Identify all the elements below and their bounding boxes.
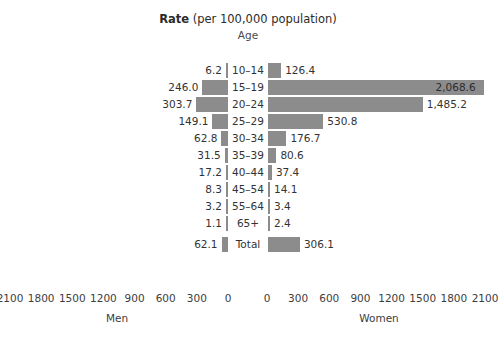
age-group-label: 65+: [228, 215, 268, 232]
page-title: Rate (per 100,000 population): [0, 12, 496, 27]
men-bar-cell: 62.8: [0, 130, 228, 147]
axis-women-ticks: 03006009001200150018002100: [262, 291, 496, 305]
age-group-label: 45–54: [228, 181, 268, 198]
title-normal: (per 100,000 population): [189, 12, 337, 26]
women-bar: [268, 199, 270, 214]
axis-label-women: Women: [262, 311, 496, 325]
table-row: 1.165+2.4: [0, 215, 496, 232]
women-bar-cell: 126.4: [268, 62, 496, 79]
women-value-label: 306.1: [304, 237, 334, 252]
axis-tick-women: 600: [319, 291, 339, 305]
men-value-label: 303.7: [162, 97, 192, 112]
women-bar-cell: 1,485.2: [268, 96, 496, 113]
table-row: 6.210–14126.4: [0, 62, 496, 79]
women-bar: [268, 165, 272, 180]
men-bar-cell: 303.7: [0, 96, 228, 113]
women-bar-cell: 2,068.6: [268, 79, 496, 96]
women-bar-cell: 14.1: [268, 181, 496, 198]
men-bar-cell: 246.0: [0, 79, 228, 96]
men-bar-cell: 62.1: [0, 236, 228, 253]
axis-tick-women: 0: [264, 291, 271, 305]
axis-tick-women: 2100: [472, 291, 498, 305]
women-bar: [268, 63, 281, 78]
women-bar-cell: 80.6: [268, 147, 496, 164]
men-value-label: 246.0: [168, 80, 198, 95]
axis-tick-men: 300: [187, 291, 207, 305]
axis-tick-women: 900: [350, 291, 370, 305]
women-value-label: 530.8: [327, 114, 357, 129]
chart-header: Rate (per 100,000 population) Age: [0, 12, 496, 42]
women-bar: [268, 182, 270, 197]
axis-tick-men: 1500: [59, 291, 86, 305]
axis-tick-women: 1800: [440, 291, 467, 305]
age-group-label: 15–19: [228, 79, 268, 96]
table-row: 246.015–192,068.6: [0, 79, 496, 96]
men-value-label: 8.3: [205, 182, 222, 197]
table-row: 149.125–29530.8: [0, 113, 496, 130]
axis-tick-men: 2100: [0, 291, 23, 305]
age-column-header: Age: [0, 28, 496, 42]
axis-tick-men: 600: [156, 291, 176, 305]
table-row: 17.240–4437.4: [0, 164, 496, 181]
men-bar-cell: 1.1: [0, 215, 228, 232]
axis-label-men: Men: [0, 311, 234, 325]
age-group-label: 25–29: [228, 113, 268, 130]
axis-tick-women: 1500: [409, 291, 436, 305]
axis-men-ticks: 21001800150012009006003000: [0, 291, 234, 305]
axis-tick-women: 1200: [378, 291, 405, 305]
women-bar-cell: 176.7: [268, 130, 496, 147]
women-value-label: 2.4: [274, 216, 291, 231]
axis-tick-men: 0: [225, 291, 232, 305]
age-group-label: 55–64: [228, 198, 268, 215]
men-value-label: 3.2: [205, 199, 222, 214]
axis-tick-women: 300: [288, 291, 308, 305]
men-value-label: 1.1: [205, 216, 222, 231]
age-group-label: Total: [228, 236, 268, 253]
men-value-label: 31.5: [197, 148, 220, 163]
women-bar-cell: 306.1: [268, 236, 496, 253]
women-value-label: 14.1: [274, 182, 297, 197]
men-bar-cell: 8.3: [0, 181, 228, 198]
men-bar-cell: 3.2: [0, 198, 228, 215]
men-value-label: 17.2: [199, 165, 222, 180]
women-value-label: 37.4: [276, 165, 299, 180]
men-value-label: 149.1: [178, 114, 208, 129]
women-value-label: 126.4: [285, 63, 315, 78]
men-value-label: 62.8: [194, 131, 217, 146]
women-bar-cell: 530.8: [268, 113, 496, 130]
women-bar-cell: 2.4: [268, 215, 496, 232]
axis-tick-men: 900: [125, 291, 145, 305]
table-row: 3.255–643.4: [0, 198, 496, 215]
men-bar-cell: 6.2: [0, 62, 228, 79]
age-group-label: 35–39: [228, 147, 268, 164]
men-bar: [212, 114, 228, 129]
men-bar-cell: 149.1: [0, 113, 228, 130]
age-group-label: 30–34: [228, 130, 268, 147]
table-row: 303.720–241,485.2: [0, 96, 496, 113]
men-value-label: 62.1: [194, 237, 217, 252]
axis-tick-men: 1200: [90, 291, 117, 305]
axis-tick-men: 1800: [28, 291, 55, 305]
men-bar-cell: 31.5: [0, 147, 228, 164]
table-row: 62.1Total306.1: [0, 236, 496, 253]
age-group-label: 40–44: [228, 164, 268, 181]
women-bar: [268, 97, 423, 112]
men-value-label: 6.2: [205, 63, 222, 78]
men-bar: [202, 80, 228, 95]
table-row: 31.535–3980.6: [0, 147, 496, 164]
women-value-label: 176.7: [290, 131, 320, 146]
age-group-label: 10–14: [228, 62, 268, 79]
women-bar-cell: 37.4: [268, 164, 496, 181]
population-pyramid-plot: 6.210–14126.4246.015–192,068.6303.720–24…: [0, 62, 496, 277]
women-value-label: 80.6: [280, 148, 303, 163]
women-bar: [268, 148, 276, 163]
women-value-label: 3.4: [274, 199, 291, 214]
table-row: 8.345–5414.1: [0, 181, 496, 198]
women-value-label: 2,068.6: [436, 80, 476, 95]
women-bar: [268, 237, 300, 252]
men-bar: [196, 97, 228, 112]
men-bar-cell: 17.2: [0, 164, 228, 181]
title-strong: Rate: [159, 12, 189, 26]
table-row: 62.830–34176.7: [0, 130, 496, 147]
women-bar: [268, 114, 323, 129]
